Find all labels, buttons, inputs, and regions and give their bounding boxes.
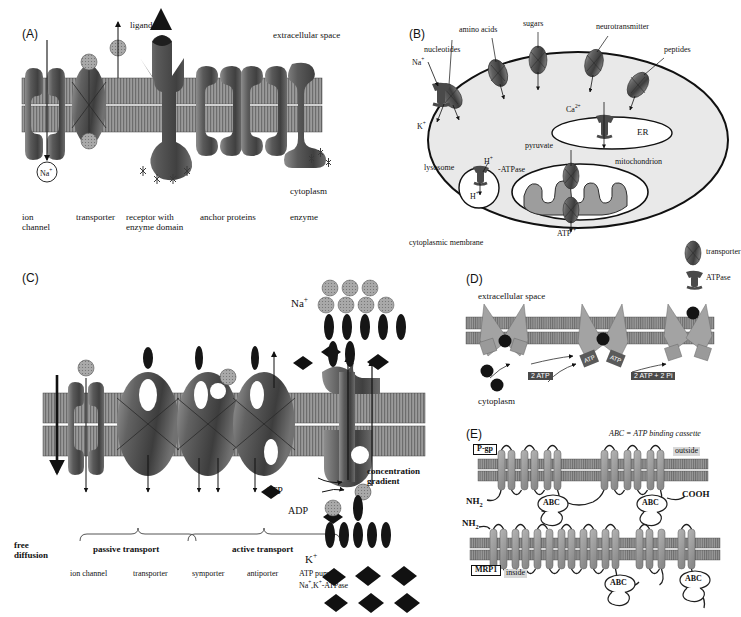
panel-c-mech-antiporter: antiporter	[247, 570, 278, 579]
panel-e-abc-3: ABC	[610, 579, 627, 588]
panel-b-label-pyruvate: pyruvate	[525, 142, 553, 151]
panel-b-label-mitochondrion: mitochondrion	[615, 158, 662, 167]
particle-cluster-bottom	[322, 495, 420, 613]
panel-b-label-peptides: peptides	[664, 46, 691, 55]
panel-e-graphics	[470, 446, 720, 609]
panel-b-label-cytoplasmic-membrane: cytoplasmic membrane	[409, 239, 483, 248]
panel-b-label-lysosome: lysosome	[424, 164, 454, 173]
panel-c-label-na: Na+	[291, 296, 308, 309]
panel-a-item-anchor: anchor proteins	[200, 212, 256, 222]
panel-e-inside-label: inside	[504, 569, 527, 578]
panel-b-label-er: ER	[637, 127, 649, 137]
panel-e-id: (E)	[466, 428, 482, 441]
particle-cluster-top	[318, 280, 406, 370]
mrp1-helices	[479, 525, 710, 609]
panel-a-item-ion-channel: ionchannel	[22, 212, 50, 232]
panel-a-item-transporter: transporter	[76, 212, 115, 222]
panel-b-graphics	[428, 32, 728, 289]
panel-b-label-k: K+	[417, 120, 426, 132]
panel-e-abc-4: ABC	[685, 575, 702, 584]
panel-b-label-atp: ATP +	[557, 227, 576, 239]
panel-b-label-amino-acids: amino acids	[459, 26, 497, 35]
panel-c-mech-atp-pump: ATP pump Na+,K+-ATPase	[299, 570, 348, 591]
panel-b-label-nucleotides: nucleotides	[424, 46, 460, 55]
panel-a-cytoplasm-label: cytoplasm	[290, 186, 327, 196]
panel-c-graphics	[43, 280, 425, 613]
panel-b-label-neurotransmitter: neurotransmitter	[596, 23, 649, 32]
panel-d-atp-out: 2 ATP + 2 Pi	[631, 372, 675, 380]
panel-c-mech-ion-channel: ion channel	[70, 570, 107, 579]
panel-a-item-enzyme: enzyme	[290, 212, 318, 222]
legend-transporter-glyph	[685, 241, 701, 265]
panel-e-outside-label: outside	[673, 447, 700, 456]
panel-b-label-h-out: H+	[484, 155, 493, 167]
panel-e-abc-2: ABC	[642, 499, 659, 508]
panel-d-id: (D)	[466, 273, 483, 286]
panel-a-extracellular-label: extracellular space	[273, 30, 340, 40]
panel-d-atp-in: 2 ATP	[528, 372, 553, 380]
panel-c-free-diffusion: freediffusion	[14, 540, 48, 560]
panel-c-label-atp: ATP	[265, 485, 283, 496]
legend-atpase-glyph	[686, 271, 703, 289]
panel-c-label-k: K+	[305, 552, 317, 565]
panel-b-label-na: Na+	[412, 56, 424, 68]
panel-c-mech-symporter: symporter	[192, 570, 224, 579]
panel-b-label-h-in: H+	[470, 190, 479, 202]
panel-d-extracellular-label: extracellular space	[478, 291, 545, 301]
panel-a-id: (A)	[22, 28, 38, 41]
panel-a-na-ion-label: Na+	[40, 167, 52, 179]
panel-c-mech-transporter: transporter	[133, 570, 168, 579]
panel-b-legend-transporter: transporter	[706, 248, 741, 257]
panel-e-cterm: COOH	[682, 489, 710, 499]
panel-c-label-gradient: concentrationgradient	[367, 466, 420, 486]
panel-e-abc-1: ABC	[543, 499, 560, 508]
panel-b-legend-atpase: ATPase	[706, 274, 730, 283]
panel-a-item-receptor: receptor withenzyme domain	[126, 212, 183, 232]
panel-c-id: (C)	[22, 272, 39, 285]
panel-e-nterm-bottom: NH2	[462, 518, 479, 530]
pgp-helices	[487, 446, 685, 526]
panel-b-label-sugars: sugars	[523, 20, 543, 29]
panel-e-protein-pgp: P-gp	[473, 444, 497, 455]
panel-b-label-atpase: -ATPase	[498, 166, 525, 175]
panel-e-abbreviation: ABC = ATP binding cassette	[609, 430, 701, 439]
panel-a-ligand-label: ligand	[130, 20, 153, 30]
panel-c-brace-passive: passive transport	[93, 544, 159, 554]
panel-e-protein-mrp1: MRP1	[471, 565, 501, 576]
panel-d-graphics	[466, 304, 714, 392]
panel-b-id: (B)	[409, 28, 425, 41]
panel-d-cytoplasm-label: cytoplasm	[478, 396, 515, 406]
panel-c-brace-active: active transport	[232, 544, 293, 554]
panel-e-nterm-top: NH2	[466, 496, 483, 508]
panel-b-label-ca: Ca2+	[566, 103, 581, 115]
panel-c-label-adp: ADP	[288, 505, 308, 516]
